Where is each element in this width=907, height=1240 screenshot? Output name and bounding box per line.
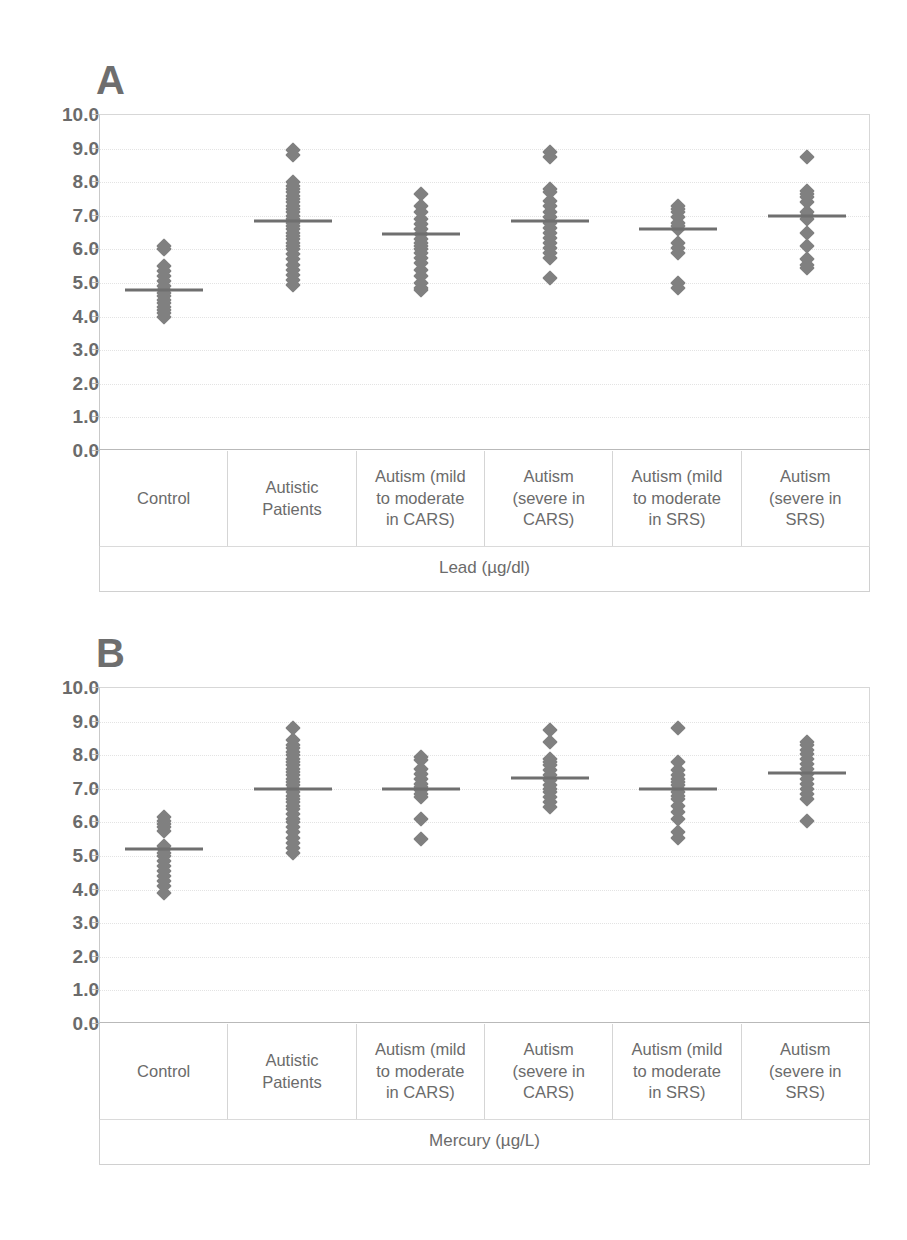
y-axis-tick-label: 9.0 [33, 138, 99, 157]
y-axis-tick-label: 10.0 [33, 678, 99, 697]
series-column [100, 115, 229, 449]
series-column [486, 115, 615, 449]
panel-b: B 10.09.08.07.06.05.04.03.02.01.00.0 Con… [0, 625, 907, 1225]
x-axis-category-label: Autism(severe inSRS) [742, 451, 869, 546]
y-axis-tick-label: 8.0 [33, 172, 99, 191]
data-point [542, 270, 558, 286]
y-axis-tick-label: 6.0 [33, 812, 99, 831]
x-axis-category-label: Control [100, 451, 228, 546]
y-axis-tick-label: 1.0 [33, 980, 99, 999]
y-axis-tick-label: 5.0 [33, 273, 99, 292]
y-axis-tick-label: 0.0 [33, 1014, 99, 1033]
series-column [357, 115, 486, 449]
series-column [100, 688, 229, 1022]
panel-a-plot-area [99, 114, 870, 450]
median-line [254, 219, 332, 222]
y-axis-tick-label: 0.0 [33, 441, 99, 460]
median-line [382, 787, 460, 790]
panel-a: A 10.09.08.07.06.05.04.03.02.01.00.0 Con… [0, 40, 907, 630]
x-axis-category-label: Autism (mildto moderatein SRS) [613, 451, 741, 546]
median-line [254, 787, 332, 790]
y-axis-tick-label: 3.0 [33, 913, 99, 932]
series-column [229, 688, 358, 1022]
panel-b-plot-area [99, 687, 870, 1023]
median-line [125, 288, 203, 291]
series-column [486, 688, 615, 1022]
median-line [768, 215, 846, 218]
y-axis-tick-label: 2.0 [33, 373, 99, 392]
panel-b-letter: B [96, 631, 125, 676]
x-axis-category-label: Control [100, 1024, 228, 1119]
median-line [382, 233, 460, 236]
median-line [768, 771, 846, 774]
y-axis-tick-label: 4.0 [33, 306, 99, 325]
y-axis-tick-label: 9.0 [33, 711, 99, 730]
y-axis-tick-label: 6.0 [33, 239, 99, 258]
panel-b-category-table: ControlAutisticPatientsAutism (mildto mo… [99, 1024, 870, 1120]
x-axis-category-label: Autism(severe inSRS) [742, 1024, 869, 1119]
panel-a-y-axis: 10.09.08.07.06.05.04.03.02.01.00.0 [0, 114, 99, 450]
x-axis-category-label: Autism (mildto moderatein CARS) [357, 451, 485, 546]
x-axis-category-label: Autism(severe inCARS) [485, 451, 613, 546]
data-point [799, 149, 815, 165]
panel-b-axis-title: Mercury (µg/L) [99, 1131, 870, 1151]
y-axis-tick-label: 4.0 [33, 879, 99, 898]
x-axis-category-label: AutisticPatients [228, 451, 356, 546]
y-axis-tick-label: 7.0 [33, 778, 99, 797]
x-axis-category-label: AutisticPatients [228, 1024, 356, 1119]
median-line [639, 228, 717, 231]
panel-b-y-axis: 10.09.08.07.06.05.04.03.02.01.00.0 [0, 687, 99, 1023]
data-point [413, 831, 429, 847]
data-point [799, 813, 815, 829]
panel-a-axis-title: Lead (µg/dl) [99, 558, 870, 578]
median-line [511, 219, 589, 222]
median-line [125, 848, 203, 851]
series-column [743, 688, 872, 1022]
data-point [670, 721, 686, 737]
figure-root: A 10.09.08.07.06.05.04.03.02.01.00.0 Con… [0, 0, 907, 1240]
y-axis-tick-label: 3.0 [33, 340, 99, 359]
median-line [639, 787, 717, 790]
x-axis-category-label: Autism (mildto moderatein CARS) [357, 1024, 485, 1119]
data-point [542, 734, 558, 750]
series-column [614, 688, 743, 1022]
data-point [413, 811, 429, 827]
y-axis-tick-label: 8.0 [33, 745, 99, 764]
y-axis-tick-label: 1.0 [33, 407, 99, 426]
x-axis-category-label: Autism(severe inCARS) [485, 1024, 613, 1119]
y-axis-tick-label: 5.0 [33, 846, 99, 865]
y-axis-tick-label: 7.0 [33, 205, 99, 224]
series-column [357, 688, 486, 1022]
series-column [614, 115, 743, 449]
series-column [743, 115, 872, 449]
median-line [511, 777, 589, 780]
x-axis-category-label: Autism (mildto moderatein SRS) [613, 1024, 741, 1119]
y-axis-tick-label: 10.0 [33, 105, 99, 124]
panel-a-category-table: ControlAutisticPatientsAutism (mildto mo… [99, 451, 870, 547]
y-axis-tick-label: 2.0 [33, 946, 99, 965]
panel-a-letter: A [96, 58, 125, 103]
series-column [229, 115, 358, 449]
